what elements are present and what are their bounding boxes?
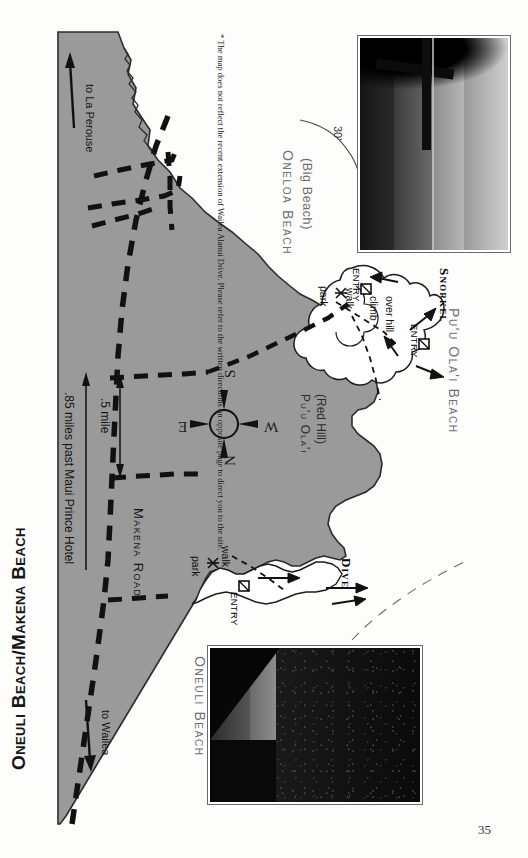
photo-trunk bbox=[422, 38, 431, 150]
compass-label-west: W bbox=[264, 418, 278, 435]
landmark-label-puu-olai: Pu'u Ola'i bbox=[298, 394, 312, 454]
compass-label-north: N bbox=[222, 455, 239, 466]
photo-oneuli-beach bbox=[208, 646, 422, 804]
access-label-entry-1: ENTRY bbox=[229, 592, 240, 626]
access-label-walk-1: walk bbox=[220, 546, 232, 567]
access-label-park-2: park bbox=[318, 286, 330, 306]
distance-label-from-hotel: .85 miles past Maui Prince Hotel bbox=[62, 392, 76, 564]
place-label-oneuli-beach: Oneuli Beach bbox=[192, 656, 208, 757]
depth-label-30ft: 30' bbox=[332, 126, 344, 140]
page-number: 35 bbox=[478, 822, 491, 838]
photo-horizon-line bbox=[432, 38, 434, 250]
photo2-sand-texture bbox=[276, 648, 420, 802]
entry-marker-3 bbox=[419, 339, 429, 349]
compass-label-south: S bbox=[222, 370, 239, 378]
photo2-hill-base bbox=[210, 740, 276, 802]
place-label-puu-olai-beach: Pu'u Ola'i Beach bbox=[446, 308, 462, 434]
access-label-entry-2: ENTRY bbox=[351, 268, 362, 302]
direction-label-la-perouse: to La Perouse bbox=[84, 84, 96, 153]
access-label-climb: climb bbox=[368, 296, 380, 321]
photo2-hill-silhouette bbox=[210, 648, 280, 740]
landmark-sublabel-puu-olai: (Red Hill) bbox=[314, 394, 328, 444]
access-label-entry-3: ENTRY bbox=[409, 324, 420, 358]
activity-label-snorkel: Snorkel bbox=[436, 268, 452, 323]
activity-label-dive: Dive bbox=[338, 558, 354, 588]
entry-marker-1 bbox=[239, 581, 249, 591]
entry-marker-2 bbox=[361, 284, 371, 294]
photo-oneloa-beach bbox=[358, 36, 510, 252]
distance-label-half-mile: .5 mile bbox=[98, 398, 112, 433]
depth-contour-offshore bbox=[352, 560, 468, 640]
road-label-makena-road: Makena Road bbox=[131, 508, 146, 597]
compass-label-east: E bbox=[178, 418, 187, 435]
direction-label-wailea: to Wailea bbox=[100, 710, 112, 755]
page-title: Oneuli Beach/Makena Beach bbox=[8, 527, 30, 770]
map-note: * The map does not reflect the recent ex… bbox=[215, 34, 226, 146]
place-label-oneloa-beach: Oneloa Beach bbox=[280, 150, 296, 255]
book-page: Oneuli Beach/Makena Beach 35 * The map d… bbox=[0, 0, 528, 858]
place-sublabel-oneloa-beach: (Big Beach) bbox=[300, 158, 314, 230]
access-label-park-1: park bbox=[190, 556, 202, 576]
access-label-over-hill: over hill bbox=[384, 296, 396, 332]
